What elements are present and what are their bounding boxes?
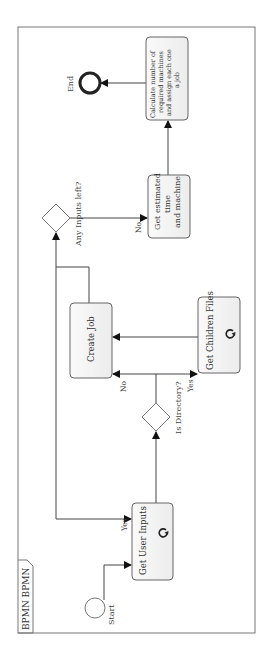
- bpmn-diagram: BPMN BPMN Start Get User Inputs: [0, 0, 272, 655]
- task-get-children-files-label: Get Children Files: [205, 291, 215, 370]
- task-get-estimated[interactable]: Get estimated time and machine: [148, 173, 190, 238]
- task-get-children-files[interactable]: Get Children Files: [198, 291, 240, 373]
- pool-label: BPMN BPMN: [21, 567, 31, 630]
- task-get-user-inputs-label: Get User Inputs: [138, 506, 148, 575]
- task-calculate-label-line2: required machines: [157, 51, 165, 113]
- task-get-user-inputs[interactable]: Get User Inputs: [132, 503, 173, 580]
- flow-label-no-estimated: No: [134, 221, 143, 233]
- gateway-any-inputs-left-label: Any Inputs left?: [74, 182, 83, 247]
- flow-label-yes-children: Yes: [186, 379, 195, 393]
- end-label: End: [66, 76, 75, 92]
- task-create-job[interactable]: Create Job: [70, 303, 112, 378]
- end-event[interactable]: End: [66, 73, 100, 93]
- task-calculate-label-line1: Calculate number of: [149, 50, 157, 118]
- task-calculate-label-line3: and assign each one: [165, 49, 173, 116]
- task-get-estimated-label-line2: time: [163, 195, 172, 213]
- task-get-estimated-label-line3: and machine: [173, 176, 182, 228]
- task-calculate-machines[interactable]: Calculate number of required machines an…: [146, 37, 188, 120]
- gateway-is-directory-label: Is Directory?: [174, 382, 183, 434]
- start-label: Start: [107, 604, 116, 625]
- task-get-estimated-label: Get estimated: [153, 173, 162, 230]
- task-create-job-label: Create Job: [86, 316, 96, 362]
- flow-label-yes-loop: Yes: [120, 518, 129, 532]
- task-calculate-label-line4: a job: [173, 72, 181, 88]
- flow-label-no-create-job: No: [119, 380, 128, 392]
